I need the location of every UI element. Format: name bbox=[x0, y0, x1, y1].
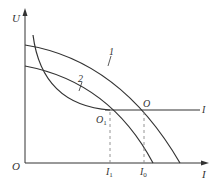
x-axis-arrow-icon bbox=[201, 161, 209, 166]
y-axis-label: U bbox=[12, 12, 21, 24]
curve-1-leader bbox=[108, 56, 111, 66]
point-O1-label: O1 bbox=[96, 114, 107, 127]
y-axis-arrow-icon bbox=[23, 8, 28, 16]
tick-I1-label: I1 bbox=[105, 166, 113, 178]
curve-2-label: 2 bbox=[78, 73, 83, 84]
point-O-label: O bbox=[143, 98, 150, 109]
curve-1-label: 1 bbox=[109, 46, 114, 57]
tick-I0-label: I0 bbox=[139, 166, 147, 178]
uI-diagram: U I O 1 2 I O O1 I1 I0 bbox=[0, 0, 219, 178]
curve-2 bbox=[25, 66, 153, 163]
x-axis-label: I bbox=[201, 168, 207, 178]
origin-label: O bbox=[12, 160, 20, 172]
curve-1 bbox=[25, 45, 180, 163]
horizontal-line-label: I bbox=[201, 104, 206, 115]
